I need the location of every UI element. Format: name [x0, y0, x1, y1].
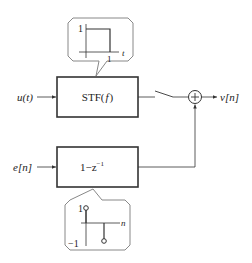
y-tick-top-label: 1 [78, 203, 83, 214]
x-axis-label: n [121, 218, 126, 228]
sampling-switch [155, 91, 173, 97]
stf-label: STF(f) [82, 91, 114, 104]
stf-impulse-callout: 1 1 t [68, 18, 133, 76]
input-u-label: u(t) [17, 91, 33, 104]
output-v-label: v[n] [220, 91, 239, 103]
y-tick-label: 1 [78, 23, 83, 34]
ntf-to-sum-line [138, 105, 195, 168]
ntf-impulse-callout: 1 −1 n [65, 189, 130, 250]
delta-sigma-diagram: 1 1 t STF(f) u(t) v[n] 1−z−1 e[n] [0, 0, 252, 263]
x-tick-label: 1 [107, 54, 112, 64]
stem-marker-n1 [102, 239, 107, 244]
stem-marker-n0 [84, 206, 89, 211]
input-e-label: e[n] [13, 161, 32, 173]
sum-junction [189, 91, 202, 104]
y-tick-bottom-label: −1 [68, 238, 79, 249]
